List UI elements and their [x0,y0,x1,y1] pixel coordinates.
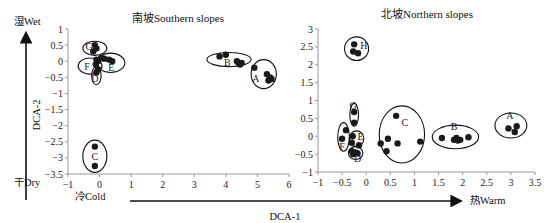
cluster-label: B [224,57,231,68]
y-tick-label: 2.5 [301,41,314,52]
cluster-d: D [348,147,362,165]
cluster-b: B [207,52,251,69]
data-point [393,113,399,119]
cluster-b: B [432,121,478,149]
data-point [351,41,357,47]
cluster-f: F [338,123,350,153]
data-point [216,53,222,59]
data-point [465,134,471,140]
northern-slopes-title: 北坡Northern slopes [381,8,473,20]
southern-slopes-title: 南坡Southern slopes [132,12,224,24]
y-tick-label: −3.5 [45,169,63,180]
x-tick-label: −1 [63,179,74,190]
data-point [512,129,518,135]
x-tick-label: 0.5 [384,177,397,188]
data-point [343,127,349,133]
data-point [349,139,355,145]
dry-label: 干Dry [14,177,41,188]
southern-slopes-panel: 南坡Southern slopes 10.50−0.5−1−1.5−2−2.5−… [45,12,292,190]
cluster-label: G [86,41,93,52]
y-tick-label: −2.5 [45,136,63,147]
x-tick-label: 3 [192,179,197,190]
cluster-label: F [84,61,90,72]
data-point [513,123,519,129]
data-point [92,163,98,169]
x-tick-label: 5 [255,179,260,190]
y-tick-label: 2 [308,59,313,70]
data-point [385,136,391,142]
y-tick-label: −1 [52,88,63,99]
cluster-label: C [401,117,408,128]
y-tick-label: 3 [308,24,313,35]
cluster-label: D [354,153,361,164]
cluster-g: G [350,100,359,126]
data-point [350,133,356,139]
cold-label: 冷Cold [75,190,106,202]
cluster-label: G [350,100,357,111]
cluster-label: D [91,73,98,84]
y-tick-label: −1.5 [45,104,63,115]
cluster-label: A [506,110,514,121]
x-tick-label: −1 [313,177,324,188]
y-tick-label: 0.5 [51,40,64,51]
cluster-label: H [360,40,367,51]
data-point [377,140,383,146]
x-tick-label: 0 [364,177,369,188]
y-tick-label: −0.5 [295,149,313,160]
x-tick-label: 6 [287,179,292,190]
x-axis-label: DCA-1 [270,211,301,222]
x-tick-label: 4 [223,179,228,190]
x-tick-label: −0.5 [333,177,351,188]
cluster-c: C [377,106,424,163]
data-point [457,137,463,143]
cluster-d: D [91,66,101,85]
y-tick-label: 1 [58,24,63,35]
cluster-c: C [83,140,107,172]
y-tick-label: 0.5 [301,113,314,124]
data-point [237,61,243,67]
y-tick-label: −1 [302,167,313,178]
cluster-label: A [252,73,260,84]
y-tick-label: 0 [308,131,313,142]
x-tick-label: 2.5 [481,177,494,188]
warm-label: 热Warm [470,194,505,206]
x-tick-label: 3 [508,177,513,188]
data-point [417,138,423,144]
data-point [92,143,98,149]
dca-figure: 湿Wet 干Dry DCA-2 冷Cold 热Warm DCA-1 南坡Sout… [0,0,547,223]
wet-label: 湿Wet [14,16,41,27]
y-axis-label: DCA-2 [31,100,42,131]
data-point [505,125,511,131]
cluster-a: A [495,110,527,138]
x-tick-label: 1 [129,179,134,190]
data-point [394,140,400,146]
data-point [383,148,389,154]
cluster-g: G [83,41,107,55]
x-tick-label: 0 [97,179,102,190]
cluster-e: E [349,131,364,149]
cluster-label: F [339,141,345,152]
cluster-h: H [345,37,369,61]
cluster-label: E [357,131,363,142]
data-point [439,135,445,141]
y-tick-label: −2 [52,120,63,131]
cluster-label: E [108,62,114,73]
x-tick-label: 3.5 [529,177,542,188]
cluster-ellipse [379,106,424,163]
data-point [351,119,357,125]
x-tick-label: 1.5 [432,177,445,188]
y-tick-label: 1 [308,95,313,106]
x-tick-label: 1 [412,177,417,188]
y-tick-label: 0 [58,56,63,67]
y-tick-label: −0.5 [45,72,63,83]
x-tick-label: 2 [460,177,465,188]
cluster-a: A [251,60,276,89]
data-point [355,50,361,56]
y-tick-label: 1.5 [301,77,314,88]
northern-slopes-panel: 北坡Northern slopes 32.521.510.50−0.5−1−1−… [295,8,541,188]
cluster-label: C [91,151,98,162]
data-point [251,64,257,70]
y-tick-label: −3 [52,152,63,163]
x-tick-label: 2 [160,179,165,190]
data-point [268,76,274,82]
